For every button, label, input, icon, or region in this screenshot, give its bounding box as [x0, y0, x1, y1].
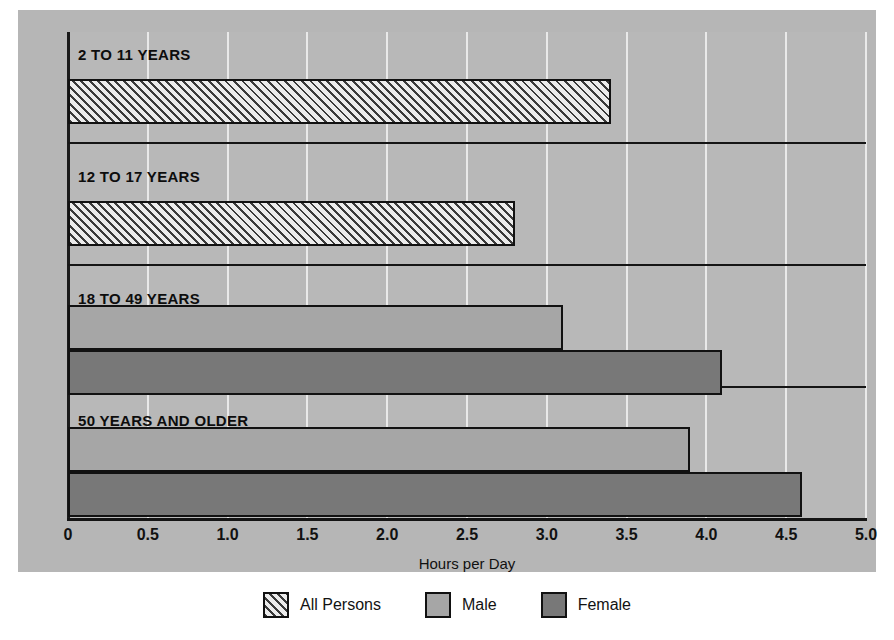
x-tick-label: 0 — [64, 526, 73, 544]
legend-label: All Persons — [300, 596, 381, 614]
bar-group: 2 TO 11 YEARS — [68, 32, 866, 154]
plot-area: 2 TO 11 YEARS12 TO 17 YEARS18 TO 49 YEAR… — [68, 32, 866, 520]
bar-group: 50 YEARS AND OLDER — [68, 398, 866, 520]
x-tick-label: 2.5 — [456, 526, 478, 544]
bar-group: 18 TO 49 YEARS — [68, 276, 866, 398]
x-tick-label: 2.0 — [376, 526, 398, 544]
bar — [68, 472, 802, 517]
bar — [68, 201, 515, 246]
legend-item: Female — [541, 592, 631, 618]
bar-group: 12 TO 17 YEARS — [68, 154, 866, 276]
x-axis-title: Hours per Day — [68, 555, 866, 572]
x-tick-label: 4.5 — [775, 526, 797, 544]
bar — [68, 305, 563, 350]
x-tick-label: 1.5 — [296, 526, 318, 544]
group-label: 12 TO 17 YEARS — [78, 168, 200, 185]
x-tick-label: 5.0 — [855, 526, 877, 544]
legend-swatch-icon — [541, 592, 567, 618]
legend-swatch-icon — [263, 592, 289, 618]
legend-item: All Persons — [263, 592, 381, 618]
x-axis-tick-labels: 00.51.01.52.02.53.03.54.04.55.0 — [18, 526, 894, 550]
x-tick-label: 3.0 — [536, 526, 558, 544]
bar — [68, 350, 722, 395]
chart-figure: 2 TO 11 YEARS12 TO 17 YEARS18 TO 49 YEAR… — [0, 0, 894, 640]
bar — [68, 427, 690, 472]
x-tick-label: 0.5 — [137, 526, 159, 544]
legend-item: Male — [425, 592, 497, 618]
legend-label: Male — [462, 596, 497, 614]
chart-panel: 2 TO 11 YEARS12 TO 17 YEARS18 TO 49 YEAR… — [18, 10, 876, 572]
x-tick-label: 4.0 — [695, 526, 717, 544]
chart-legend: All PersonsMaleFemale — [0, 592, 894, 618]
x-tick-label: 3.5 — [615, 526, 637, 544]
bar — [68, 79, 611, 124]
legend-label: Female — [578, 596, 631, 614]
group-label: 2 TO 11 YEARS — [78, 46, 191, 63]
x-axis-line — [67, 518, 867, 521]
legend-swatch-icon — [425, 592, 451, 618]
x-tick-label: 1.0 — [216, 526, 238, 544]
